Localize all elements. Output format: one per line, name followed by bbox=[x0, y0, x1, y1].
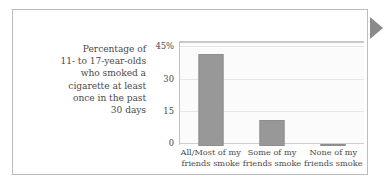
bar-slot bbox=[241, 43, 302, 146]
x-axis-category-label: None of myfriends smoke bbox=[303, 147, 364, 168]
caption-line: who smoked a bbox=[27, 67, 146, 79]
caption-line: cigarette at least bbox=[27, 80, 146, 92]
caption-line: 30 days bbox=[27, 104, 146, 116]
y-axis-tick-label: 30 bbox=[163, 75, 174, 84]
x-axis-label-line: Some of my bbox=[241, 147, 302, 158]
y-axis-tick-label: 15 bbox=[163, 107, 174, 116]
caption-line: Percentage of bbox=[27, 43, 146, 55]
chart-panel: Percentage of 11- to 17-year-olds who sm… bbox=[12, 9, 368, 175]
x-axis-label-line: All/Most of my bbox=[180, 147, 241, 158]
bar bbox=[198, 54, 223, 146]
x-axis-label-line: friends smoke bbox=[180, 158, 241, 169]
x-axis-category-label: Some of myfriends smoke bbox=[241, 147, 302, 168]
caption-line: 11- to 17-year-olds bbox=[27, 55, 146, 67]
bar bbox=[321, 144, 346, 146]
figure-container: Percentage of 11- to 17-year-olds who sm… bbox=[0, 0, 392, 189]
chart-description: Percentage of 11- to 17-year-olds who sm… bbox=[27, 43, 146, 116]
x-axis-label-line: None of my bbox=[303, 147, 364, 158]
y-axis-tick-label: 0 bbox=[169, 139, 174, 148]
x-axis-label-line: friends smoke bbox=[303, 158, 364, 169]
bar-series bbox=[180, 43, 364, 146]
bar bbox=[259, 120, 284, 146]
x-axis-category-label: All/Most of myfriends smoke bbox=[180, 147, 241, 168]
bar-chart: 45% 30 15 0 All/Most of myfriends smokeS… bbox=[152, 41, 364, 176]
bar-slot bbox=[303, 43, 364, 146]
caption-line: once in the past bbox=[27, 92, 146, 104]
triangle-right-icon bbox=[370, 17, 383, 39]
x-axis: All/Most of myfriends smokeSome of myfri… bbox=[180, 147, 364, 175]
y-axis-tick-label: 45% bbox=[155, 42, 174, 51]
x-axis-label-line: friends smoke bbox=[241, 158, 302, 169]
bar-slot bbox=[180, 43, 241, 146]
y-axis: 45% 30 15 0 bbox=[152, 41, 177, 144]
plot-area bbox=[180, 41, 364, 144]
